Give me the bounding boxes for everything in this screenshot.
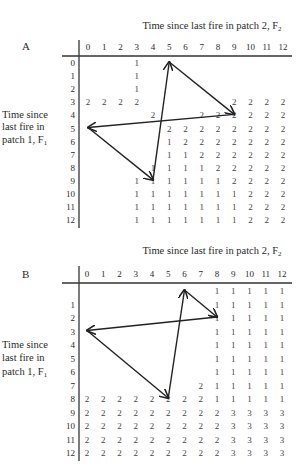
grid-cell: 3 — [280, 448, 285, 458]
grid-cell: 1 — [264, 286, 269, 296]
grid-cell: 1 — [183, 163, 188, 173]
column-label: 9 — [231, 269, 236, 279]
column-label: 11 — [261, 269, 270, 279]
grid-cell: 2 — [200, 124, 205, 134]
grid-cell: 1 — [135, 176, 140, 186]
grid-cell: 2 — [166, 421, 171, 431]
row-label: 5 — [71, 354, 76, 364]
grid-cell: 1 — [151, 202, 156, 212]
grid-cell: 3 — [264, 408, 269, 418]
grid-cell: 2 — [248, 163, 253, 173]
grid-cell: 2 — [248, 97, 253, 107]
grid-cell: 1 — [231, 286, 236, 296]
row-label: 10 — [66, 189, 76, 199]
panel-a-ylabel-3: patch 1, F1 — [2, 134, 48, 147]
row-label: 2 — [71, 84, 76, 94]
grid-cell: 1 — [231, 381, 236, 391]
panel-a-cycle-arrows — [88, 62, 234, 180]
panel-b-title: Time since last fire in patch 2, F2 — [142, 245, 282, 258]
grid-cell: 2 — [215, 421, 220, 431]
grid-cell: 2 — [101, 394, 106, 404]
grid-cell: 2 — [102, 97, 107, 107]
grid-cell: 2 — [200, 110, 205, 120]
grid-cell: 2 — [183, 137, 188, 147]
column-label: 7 — [199, 269, 204, 279]
column-label: 8 — [216, 42, 221, 52]
grid-cell: 1 — [247, 354, 252, 364]
row-label: 9 — [71, 176, 76, 186]
panel-a-title: Time since last fire in patch 2, F2 — [142, 20, 282, 33]
grid-cell: 2 — [281, 137, 286, 147]
grid-cell: 3 — [231, 421, 236, 431]
grid-cell: 1 — [167, 163, 172, 173]
grid-cell: 2 — [248, 176, 253, 186]
grid-cell: 2 — [265, 137, 270, 147]
grid-cell: 2 — [182, 408, 187, 418]
grid-cell: 2 — [232, 97, 237, 107]
grid-cell: 2 — [281, 202, 286, 212]
grid-cell: 2 — [232, 137, 237, 147]
grid-cell: 2 — [199, 408, 204, 418]
grid-cell: 1 — [215, 354, 220, 364]
grid-cell: 1 — [135, 58, 140, 68]
grid-cell: 1 — [215, 300, 220, 310]
grid-cell: 1 — [264, 381, 269, 391]
cycle-arrow — [87, 331, 168, 399]
grid-cell: 2 — [281, 189, 286, 199]
grid-cell: 2 — [151, 110, 156, 120]
grid-cell: 2 — [215, 408, 220, 418]
panel-b-ylabel-3: patch 1, F1 — [2, 366, 48, 379]
grid-cell: 2 — [281, 97, 286, 107]
column-label: 6 — [183, 42, 188, 52]
grid-cell: 2 — [182, 435, 187, 445]
grid-cell: 1 — [280, 367, 285, 377]
column-label: 10 — [245, 269, 255, 279]
grid-cell: 1 — [215, 327, 220, 337]
grid-cell: 1 — [200, 163, 205, 173]
grid-cell: 2 — [281, 215, 286, 225]
column-label: 1 — [102, 42, 107, 52]
grid-cell: 2 — [117, 435, 122, 445]
grid-cell: 2 — [85, 408, 90, 418]
grid-cell: 2 — [232, 176, 237, 186]
panel-b-row-labels: 123456789101112 — [66, 300, 76, 459]
grid-cell: 2 — [134, 421, 139, 431]
grid-cell: 1 — [247, 381, 252, 391]
grid-cell: 2 — [85, 394, 90, 404]
grid-cell: 2 — [118, 97, 123, 107]
grid-cell: 2 — [215, 448, 220, 458]
grid-cell: 3 — [247, 435, 252, 445]
grid-cell: 2 — [265, 189, 270, 199]
grid-cell: 2 — [265, 176, 270, 186]
grid-cell: 2 — [199, 394, 204, 404]
grid-cell: 1 — [247, 327, 252, 337]
grid-cell: 2 — [281, 110, 286, 120]
grid-cell: 1 — [231, 367, 236, 377]
grid-cell: 2 — [86, 97, 91, 107]
column-label: 8 — [215, 269, 220, 279]
grid-cell: 2 — [265, 215, 270, 225]
grid-cell: 1 — [167, 202, 172, 212]
panel-b: Time since last fire in patch 2, F2 B 01… — [2, 245, 292, 461]
grid-cell: 2 — [216, 150, 221, 160]
grid-cell: 2 — [117, 408, 122, 418]
column-label: 12 — [279, 42, 288, 52]
grid-cell: 1 — [183, 215, 188, 225]
grid-cell: 1 — [264, 300, 269, 310]
grid-cell: 1 — [264, 340, 269, 350]
grid-cell: 2 — [248, 202, 253, 212]
grid-cell: 1 — [167, 137, 172, 147]
row-label: 12 — [66, 448, 75, 458]
grid-cell: 2 — [166, 408, 171, 418]
grid-cell: 2 — [199, 448, 204, 458]
column-label: 3 — [135, 42, 140, 52]
grid-cell: 2 — [85, 435, 90, 445]
grid-cell: 1 — [167, 176, 172, 186]
panel-b-label: B — [22, 268, 29, 280]
grid-cell: 1 — [232, 202, 237, 212]
grid-cell: 1 — [247, 286, 252, 296]
grid-cell: 3 — [264, 448, 269, 458]
grid-cell: 3 — [247, 421, 252, 431]
grid-cell: 1 — [264, 327, 269, 337]
grid-cell: 2 — [101, 448, 106, 458]
